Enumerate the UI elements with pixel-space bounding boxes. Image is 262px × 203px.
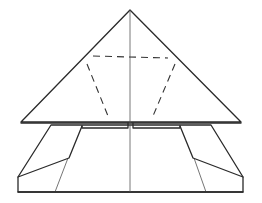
top-triangle-flap [21, 10, 241, 123]
origami-diagram [0, 0, 262, 203]
lower-body-outline [18, 125, 243, 192]
lower-body [18, 125, 243, 192]
triangle-outline [21, 10, 241, 122]
